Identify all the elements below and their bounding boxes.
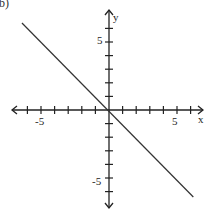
coordinate-plane: x y -5 5 5 -5 [0,0,204,210]
y-tick-label-neg5: -5 [92,175,102,187]
y-tick-label-5: 5 [97,34,103,46]
x-tick-label-5: 5 [172,115,178,127]
x-tick-label-neg5: -5 [35,115,45,127]
y-axis-label: y [113,11,119,23]
x-axis-label: x [198,113,204,125]
